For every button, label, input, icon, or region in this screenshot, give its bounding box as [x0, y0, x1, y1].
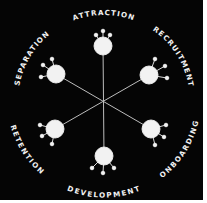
node-satellite-dot	[163, 64, 167, 68]
node-recruitment	[140, 57, 169, 84]
node-circle	[142, 120, 160, 138]
node-satellite-dot	[38, 123, 42, 127]
node-attraction	[94, 29, 112, 55]
node-satellite-dot	[162, 135, 166, 139]
node-satellite-dot	[108, 33, 112, 37]
node-satellite-dot	[153, 143, 157, 147]
node-satellite-dot	[94, 33, 98, 37]
node-satellite-dot	[90, 166, 94, 170]
label-onboarding: ONBOARDING	[158, 119, 201, 180]
node-satellite-dot	[50, 57, 54, 61]
node-satellite-dot	[41, 63, 45, 67]
node-circle	[47, 65, 65, 83]
node-satellite-dot	[101, 29, 105, 33]
node-satellite-dot	[40, 134, 44, 138]
label-development: DEVELOPMENT	[66, 184, 142, 200]
node-satellite-dot	[39, 75, 43, 79]
node-circle	[95, 147, 113, 165]
label-recruitment: RECRUITMENT	[151, 24, 196, 88]
node-development	[90, 147, 116, 175]
node-separation	[39, 57, 65, 83]
node-circle	[46, 120, 64, 138]
label-separation: SEPARATION	[12, 29, 51, 87]
node-satellite-dot	[165, 76, 169, 80]
node-circle	[140, 66, 158, 84]
label-attraction: ATTRACTION	[71, 8, 136, 22]
node-satellite-dot	[101, 171, 105, 175]
node-retention	[38, 120, 64, 146]
label-retention: RETENTION	[9, 124, 47, 177]
node-satellite-dot	[153, 57, 157, 61]
node-onboarding	[142, 120, 168, 147]
node-satellite-dot	[50, 142, 54, 146]
spoke-diagonal-b	[55, 75, 149, 129]
lifecycle-wheel: SEPARATION ATTRACTION RECRUITMENT RETENT…	[0, 0, 207, 203]
node-satellite-dot	[164, 123, 168, 127]
node-satellite-dot	[112, 166, 116, 170]
node-circle	[94, 37, 112, 55]
spokes	[55, 46, 151, 156]
